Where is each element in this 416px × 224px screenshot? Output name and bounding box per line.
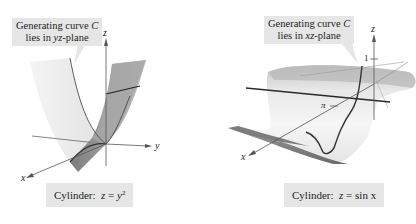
caption: Cylinder: z = y2 bbox=[46, 183, 133, 207]
z-axis-label: z bbox=[103, 27, 107, 38]
caption: Cylinder: z = sin x bbox=[284, 183, 384, 207]
x-axis-label: x bbox=[241, 151, 245, 162]
generating-curve-callout: Generating curve C lies in xz-plane bbox=[264, 16, 354, 44]
y-axis bbox=[106, 144, 148, 146]
x-axis-label: x bbox=[21, 172, 25, 183]
z-tick-label-1: 1 bbox=[364, 53, 369, 63]
generating-curve-callout: Generating curve C lies in yz-plane bbox=[12, 18, 102, 46]
figure-parabolic-cylinder: Generating curve C lies in yz-plane z y … bbox=[0, 0, 208, 224]
x-tick-label-pi: π bbox=[321, 100, 326, 110]
figure-sine-cylinder: Generating curve C lies in xz-plane z 1 … bbox=[208, 0, 416, 224]
callout-pointer bbox=[342, 44, 358, 64]
z-axis-label: z bbox=[371, 23, 375, 34]
callout-pointer bbox=[74, 44, 86, 64]
y-axis-label: y bbox=[155, 140, 159, 151]
